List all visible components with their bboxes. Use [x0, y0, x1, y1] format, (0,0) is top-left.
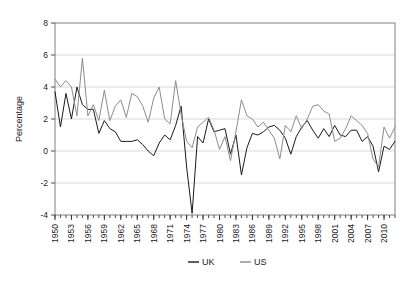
x-tick-label: 2007 [363, 224, 373, 243]
x-tick-label: 1980 [215, 224, 225, 243]
y-axis-ticks [51, 23, 55, 215]
x-tick-label: 1953 [66, 224, 76, 243]
x-tick-label: 1986 [247, 224, 257, 243]
chart-container: -4-202468 195019531956195919621965196819… [0, 0, 412, 281]
y-tick-label: 6 [43, 50, 48, 60]
y-tick-label: -2 [40, 178, 48, 188]
x-tick-label: 1971 [165, 224, 175, 243]
x-tick-label: 1992 [280, 224, 290, 243]
x-tick-label: 1956 [83, 224, 93, 243]
x-tick-label: 1950 [50, 224, 60, 243]
x-axis-tick-labels: 1950195319561959196219651968197119741977… [50, 224, 389, 243]
y-axis-tick-labels: -4-202468 [40, 18, 48, 220]
x-tick-label: 1959 [99, 224, 109, 243]
y-tick-label: 2 [43, 114, 48, 124]
legend-label-us: US [254, 257, 267, 267]
x-tick-label: 1989 [264, 224, 274, 243]
chart-legend: UKUS [188, 257, 267, 267]
x-tick-label: 2010 [379, 224, 389, 243]
line-chart: -4-202468 195019531956195919621965196819… [0, 0, 412, 281]
y-axis-title: Percentage [14, 96, 24, 142]
x-tick-label: 1965 [132, 224, 142, 243]
y-axis-title-text: Percentage [14, 96, 24, 142]
y-tick-label: 8 [43, 18, 48, 28]
x-tick-label: 1974 [182, 224, 192, 243]
x-tick-label: 1977 [198, 224, 208, 243]
x-tick-label: 2004 [346, 224, 356, 243]
x-axis-major-ticks [55, 215, 384, 220]
y-tick-label: 0 [43, 146, 48, 156]
legend-label-uk: UK [202, 257, 215, 267]
x-tick-label: 2001 [330, 224, 340, 243]
y-tick-label: -4 [40, 210, 48, 220]
x-tick-label: 1995 [297, 224, 307, 243]
x-tick-label: 1968 [149, 224, 159, 243]
x-tick-label: 1983 [231, 224, 241, 243]
x-tick-label: 1962 [116, 224, 126, 243]
x-tick-label: 1998 [313, 224, 323, 243]
y-tick-label: 4 [43, 82, 48, 92]
